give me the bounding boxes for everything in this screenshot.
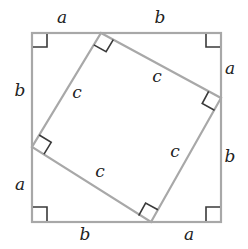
label-left-a: a: [15, 174, 25, 194]
label-hyp-bottom-right: c: [170, 141, 180, 161]
pythagorean-diagram: a b a b b a b a c c c c: [0, 0, 248, 249]
label-top-a: a: [57, 7, 67, 27]
label-right-b: b: [225, 146, 236, 166]
right-angle-marker-top-right: [206, 34, 220, 47]
label-right-a: a: [225, 58, 235, 78]
label-bottom-a: a: [184, 224, 194, 244]
right-angle-marker-top-left: [33, 34, 47, 47]
right-angle-marker-bottom-left: [33, 207, 47, 221]
label-top-b: b: [155, 7, 166, 27]
right-angle-marker-inner-left: [39, 135, 51, 154]
outer-square: [32, 33, 221, 222]
label-hyp-top-left: c: [72, 82, 82, 102]
right-angle-marker-bottom-right: [206, 207, 220, 221]
label-bottom-b: b: [80, 224, 91, 244]
label-left-b: b: [15, 80, 26, 100]
label-hyp-top-right: c: [152, 66, 162, 86]
inner-square: [32, 33, 221, 222]
label-hyp-bottom-left: c: [95, 161, 105, 181]
